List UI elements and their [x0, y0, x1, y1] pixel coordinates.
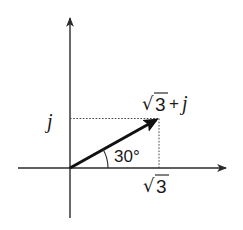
radical-sign: √	[142, 93, 154, 114]
angle-label: 30°	[114, 147, 140, 166]
imaginary-tick-label: j	[44, 110, 53, 133]
angle-arc	[103, 149, 108, 168]
radicand: 3	[156, 176, 167, 197]
vector-label: √ 3 + j	[142, 92, 188, 115]
plus-operator: +	[169, 94, 179, 113]
radical-sign: √	[143, 175, 155, 196]
imaginary-unit: j	[179, 92, 188, 115]
complex-plane-diagram: 30° j √ 3 √ 3 + j	[0, 0, 243, 230]
radicand: 3	[155, 94, 166, 115]
phasor-vector	[70, 120, 156, 168]
real-tick-label: √ 3	[143, 175, 169, 197]
